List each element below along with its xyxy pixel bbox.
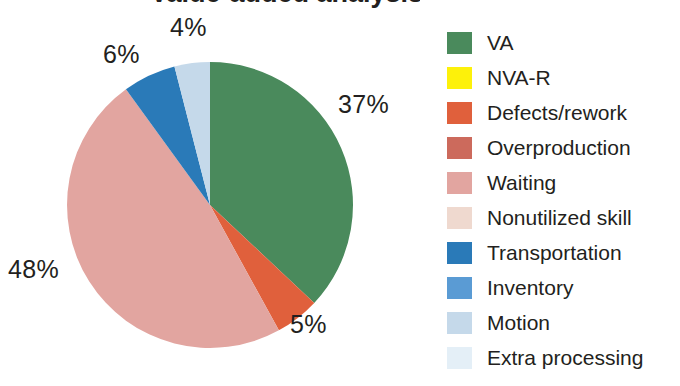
legend-item-label: Extra processing — [487, 347, 643, 368]
legend-item-label: Motion — [487, 312, 550, 333]
pie-chart-area: 37% 5% 48% 6% 4% — [0, 0, 420, 386]
legend-swatch-icon — [447, 347, 472, 369]
slice-label-va: 37% — [338, 90, 389, 119]
legend-item-label: NVA-R — [487, 67, 551, 88]
legend-swatch-icon — [447, 32, 472, 54]
legend-swatch-icon — [447, 242, 472, 264]
legend-item-extra-processing[interactable]: Extra processing — [447, 340, 680, 375]
legend-item-motion[interactable]: Motion — [447, 305, 680, 340]
chart-legend: VANVA-RDefects/reworkOverproductionWaiti… — [447, 25, 680, 375]
legend-item-label: Overproduction — [487, 137, 631, 158]
pie-svg — [0, 0, 420, 386]
legend-item-defects-rework[interactable]: Defects/rework — [447, 95, 680, 130]
legend-swatch-icon — [447, 137, 472, 159]
legend-swatch-icon — [447, 277, 472, 299]
legend-swatch-icon — [447, 102, 472, 124]
legend-item-nva-r[interactable]: NVA-R — [447, 60, 680, 95]
legend-item-va[interactable]: VA — [447, 25, 680, 60]
slice-label-motion: 4% — [170, 13, 207, 42]
legend-item-waiting[interactable]: Waiting — [447, 165, 680, 200]
legend-item-overproduction[interactable]: Overproduction — [447, 130, 680, 165]
legend-item-label: Waiting — [487, 172, 556, 193]
legend-item-label: Inventory — [487, 277, 573, 298]
legend-swatch-icon — [447, 207, 472, 229]
legend-item-label: Transportation — [487, 242, 622, 263]
legend-item-nonutilized-skill[interactable]: Nonutilized skill — [447, 200, 680, 235]
legend-item-inventory[interactable]: Inventory — [447, 270, 680, 305]
legend-swatch-icon — [447, 312, 472, 334]
legend-item-label: Nonutilized skill — [487, 207, 632, 228]
legend-item-transportation[interactable]: Transportation — [447, 235, 680, 270]
pie-slices — [67, 62, 353, 348]
slice-label-defects-rework: 5% — [290, 310, 327, 339]
slice-label-transportation: 6% — [103, 40, 140, 69]
legend-swatch-icon — [447, 172, 472, 194]
legend-swatch-icon — [447, 67, 472, 89]
slice-label-waiting: 48% — [8, 255, 59, 284]
legend-item-label: VA — [487, 32, 513, 53]
pie-chart-figure: Value-added analysis 37% 5% 48% 6% 4% VA… — [0, 0, 680, 386]
legend-item-label: Defects/rework — [487, 102, 627, 123]
